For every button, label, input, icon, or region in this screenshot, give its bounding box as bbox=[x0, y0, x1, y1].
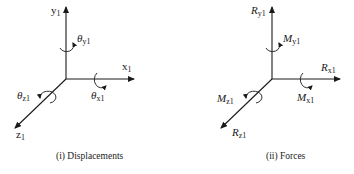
caption-displacements: (i) Displacements bbox=[56, 151, 123, 161]
displacements-diagram bbox=[15, 7, 134, 128]
force-y-label: Ry1 bbox=[251, 5, 266, 18]
caption-forces: (ii) Forces bbox=[266, 151, 305, 161]
z-axis-label: z1 bbox=[16, 129, 25, 142]
force-x-label: Rx1 bbox=[321, 62, 336, 75]
moment-x-label: Mx1 bbox=[297, 92, 314, 105]
moment-y-label: My1 bbox=[283, 33, 300, 46]
moment-z-label: Mz1 bbox=[217, 93, 234, 106]
rotation-y-arrow bbox=[60, 43, 74, 52]
z-axis-arrow bbox=[15, 79, 66, 128]
diagram-canvas bbox=[0, 0, 354, 174]
moment-y-arrow bbox=[266, 43, 280, 52]
x-axis-label: x1 bbox=[122, 61, 132, 74]
theta-y-label: θy1 bbox=[77, 33, 90, 46]
moment-x-arrow bbox=[300, 73, 312, 88]
theta-x-label: θx1 bbox=[91, 90, 104, 103]
rotation-x-arrow bbox=[94, 73, 106, 88]
y-axis-label: y1 bbox=[51, 5, 61, 18]
theta-z-label: θz1 bbox=[17, 90, 30, 103]
force-z-label: Rz1 bbox=[232, 127, 246, 140]
